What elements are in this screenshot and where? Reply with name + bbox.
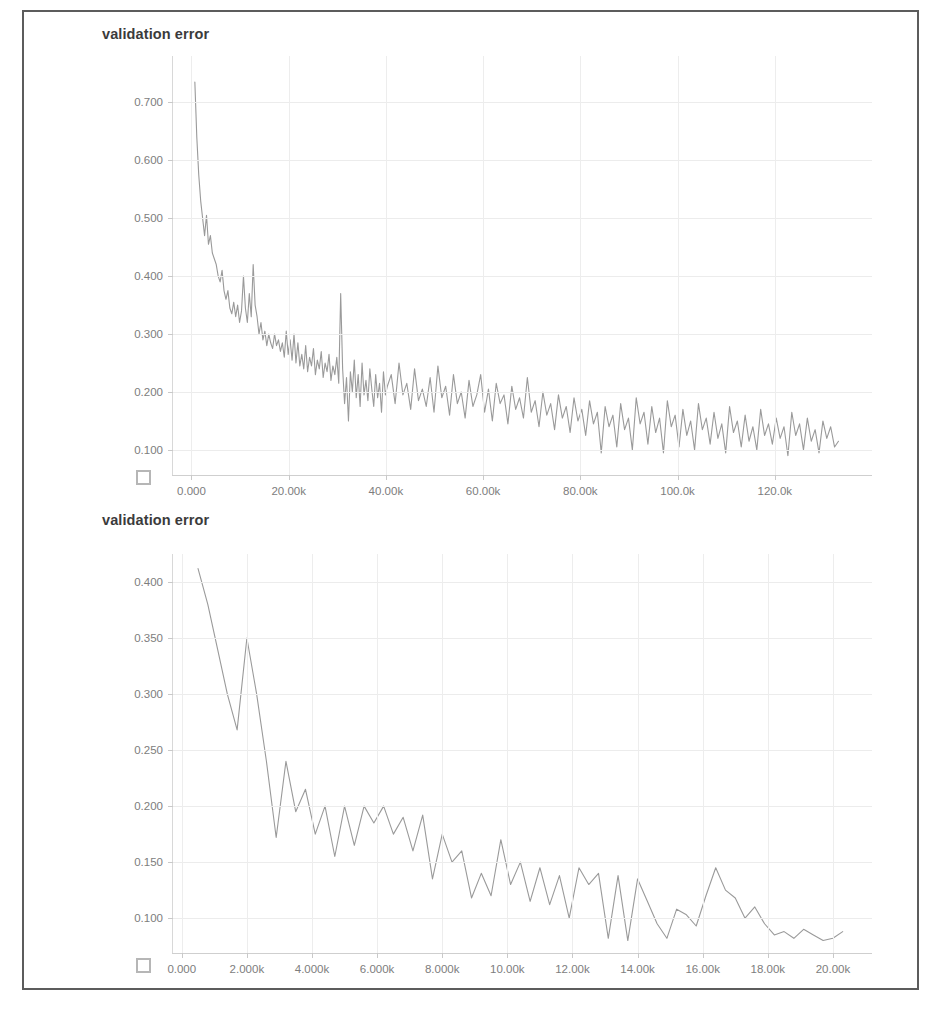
- gridline-vertical: [833, 554, 834, 954]
- y-tick-mark: [168, 450, 173, 451]
- y-tick-label: 0.300: [134, 688, 163, 700]
- series-line-top: [172, 56, 872, 476]
- y-tick-label: 0.100: [134, 912, 163, 924]
- x-tick-label: 14.00k: [620, 963, 655, 975]
- expand-icon[interactable]: [136, 470, 151, 485]
- x-tick-mark: [768, 953, 769, 958]
- scanned-page-frame: validation error 0.1000.2000.3000.4000.5…: [22, 10, 919, 990]
- x-tick-mark: [247, 953, 248, 958]
- gridline-horizontal: [172, 218, 872, 219]
- y-tick-label: 0.600: [134, 154, 163, 166]
- gridline-vertical: [442, 554, 443, 954]
- gridline-vertical: [191, 56, 192, 476]
- x-tick-label: 40.00k: [369, 485, 404, 497]
- x-tick-mark: [833, 953, 834, 958]
- gridline-horizontal: [172, 334, 872, 335]
- chart-panel-top: validation error 0.1000.2000.3000.4000.5…: [24, 12, 921, 504]
- chart-title-top: validation error: [102, 26, 209, 42]
- y-tick-label: 0.200: [134, 800, 163, 812]
- x-tick-label: 60.00k: [466, 485, 501, 497]
- gridline-horizontal: [172, 276, 872, 277]
- gridline-horizontal: [172, 160, 872, 161]
- x-tick-label: 10.00k: [490, 963, 525, 975]
- x-tick-mark: [580, 475, 581, 480]
- y-tick-mark: [168, 334, 173, 335]
- plot-wrap-top: 0.1000.2000.3000.4000.5000.6000.7000.000…: [24, 46, 921, 496]
- y-tick-label: 0.400: [134, 270, 163, 282]
- gridline-vertical: [638, 554, 639, 954]
- x-tick-label: 80.00k: [563, 485, 598, 497]
- x-tick-label: 20.00k: [271, 485, 306, 497]
- y-tick-label: 0.100: [134, 444, 163, 456]
- x-tick-label: 2.000k: [230, 963, 265, 975]
- gridline-vertical: [377, 554, 378, 954]
- gridline-vertical: [678, 56, 679, 476]
- y-tick-mark: [168, 638, 173, 639]
- y-tick-mark: [168, 862, 173, 863]
- y-tick-label: 0.250: [134, 744, 163, 756]
- x-tick-label: 20.00k: [816, 963, 851, 975]
- chart-title-bottom: validation error: [102, 512, 209, 528]
- x-tick-mark: [775, 475, 776, 480]
- x-tick-mark: [507, 953, 508, 958]
- y-tick-label: 0.200: [134, 386, 163, 398]
- x-tick-mark: [483, 475, 484, 480]
- y-tick-label: 0.350: [134, 632, 163, 644]
- y-tick-mark: [168, 750, 173, 751]
- y-tick-label: 0.150: [134, 856, 163, 868]
- x-tick-label: 16.00k: [685, 963, 720, 975]
- x-tick-label: 8.000k: [425, 963, 460, 975]
- y-tick-mark: [168, 160, 173, 161]
- x-tick-mark: [678, 475, 679, 480]
- y-tick-mark: [168, 806, 173, 807]
- gridline-vertical: [386, 56, 387, 476]
- y-tick-label: 0.400: [134, 576, 163, 588]
- gridline-horizontal: [172, 450, 872, 451]
- x-tick-label: 12.00k: [555, 963, 590, 975]
- gridline-vertical: [580, 56, 581, 476]
- x-tick-mark: [377, 953, 378, 958]
- y-tick-label: 0.500: [134, 212, 163, 224]
- x-tick-mark: [703, 953, 704, 958]
- x-tick-mark: [312, 953, 313, 958]
- plot-wrap-bottom: 0.1000.1500.2000.2500.3000.3500.4000.000…: [24, 532, 921, 982]
- chart-panel-bottom: validation error 0.1000.1500.2000.2500.3…: [24, 504, 921, 992]
- x-tick-label: 6.000k: [360, 963, 395, 975]
- x-tick-label: 0.000: [167, 963, 196, 975]
- x-tick-mark: [638, 953, 639, 958]
- plot-area-bottom[interactable]: 0.1000.1500.2000.2500.3000.3500.4000.000…: [172, 554, 872, 954]
- gridline-vertical: [182, 554, 183, 954]
- x-tick-label: 0.000: [177, 485, 206, 497]
- y-tick-label: 0.700: [134, 96, 163, 108]
- y-tick-mark: [168, 918, 173, 919]
- y-tick-mark: [168, 694, 173, 695]
- gridline-vertical: [775, 56, 776, 476]
- x-tick-mark: [191, 475, 192, 480]
- gridline-horizontal: [172, 392, 872, 393]
- plot-area-top[interactable]: 0.1000.2000.3000.4000.5000.6000.7000.000…: [172, 56, 872, 476]
- gridline-horizontal: [172, 102, 872, 103]
- gridline-vertical: [312, 554, 313, 954]
- x-tick-label: 100.0k: [660, 485, 695, 497]
- x-tick-mark: [442, 953, 443, 958]
- expand-icon[interactable]: [136, 958, 151, 973]
- x-tick-mark: [289, 475, 290, 480]
- gridline-vertical: [768, 554, 769, 954]
- gridline-vertical: [289, 56, 290, 476]
- y-tick-mark: [168, 276, 173, 277]
- gridline-vertical: [247, 554, 248, 954]
- y-tick-mark: [168, 582, 173, 583]
- y-tick-mark: [168, 102, 173, 103]
- y-tick-label: 0.300: [134, 328, 163, 340]
- x-tick-mark: [572, 953, 573, 958]
- x-tick-mark: [182, 953, 183, 958]
- gridline-vertical: [572, 554, 573, 954]
- x-tick-label: 4.000k: [295, 963, 330, 975]
- x-tick-label: 18.00k: [751, 963, 786, 975]
- y-tick-mark: [168, 218, 173, 219]
- gridline-vertical: [483, 56, 484, 476]
- gridline-vertical: [703, 554, 704, 954]
- gridline-vertical: [507, 554, 508, 954]
- x-tick-label: 120.0k: [758, 485, 793, 497]
- x-tick-mark: [386, 475, 387, 480]
